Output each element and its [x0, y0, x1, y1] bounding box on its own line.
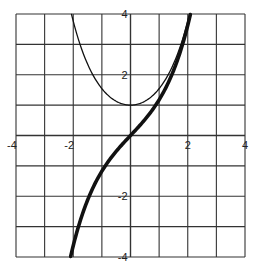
- x-tick-label: 4: [242, 139, 248, 151]
- y-tick-label: 4: [121, 8, 127, 20]
- x-tick-label: 2: [185, 139, 191, 151]
- y-tick-label: 2: [121, 69, 127, 81]
- y-tick-label: -4: [118, 251, 128, 263]
- function-plot: -4-22442-2-4: [0, 0, 262, 274]
- x-tick-label: -2: [64, 139, 74, 151]
- x-tick-label: -4: [7, 139, 17, 151]
- y-tick-label: -2: [118, 190, 128, 202]
